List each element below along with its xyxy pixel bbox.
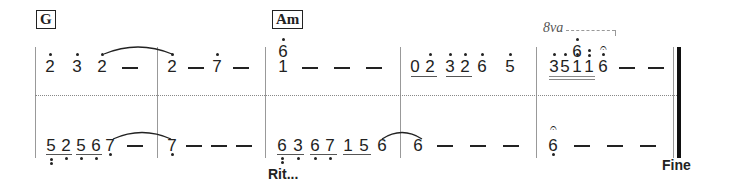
note: 6 [412,137,424,154]
fine-marking: Fine [662,157,691,173]
extension-dash [127,145,143,147]
note: 6 [547,137,559,154]
note: 1 [583,58,595,75]
note: 1 [571,58,583,75]
extension-dash [334,67,350,69]
high-octave-dot [429,53,432,56]
tie-arc [111,130,173,140]
eighth-underline [277,154,304,155]
barline-1 [157,47,158,158]
high-octave-dot [564,53,567,56]
barline-2 [265,47,266,158]
low-octave-dot [95,157,98,160]
note: 2 [424,58,436,75]
high-octave-dot [49,53,52,56]
extension-dash [437,145,453,147]
note: 2 [44,58,56,75]
high-octave-dot [576,53,579,56]
high-octave-dot [76,53,79,56]
ottava-dashed-line [566,30,615,31]
note: 2 [96,58,108,75]
sixteenth-underline-1 [549,76,595,77]
extension-dash [574,145,590,147]
high-octave-dot [216,53,219,56]
extension-dash [236,145,252,147]
chord-symbol-am: Am [272,10,303,29]
final-barline-thin [673,47,674,158]
high-octave-dot [481,53,484,56]
high-octave-dot [553,53,556,56]
note: 7 [166,137,178,154]
low-octave-dot [50,162,53,165]
high-octave-dot [282,38,285,41]
eighth-underline [310,154,337,155]
low-octave-dot [329,157,332,160]
low-octave-dot [281,157,284,160]
extension-dash [640,145,656,147]
ottava-marking: 8va [543,20,563,36]
extension-dash [122,67,138,69]
note: 6 [309,137,321,154]
extension-dash [607,145,623,147]
chord-symbol-g: G [36,10,56,29]
low-octave-dot [80,157,83,160]
high-octave-dot [588,54,591,57]
extension-dash [619,67,635,69]
barline-3 [400,47,401,158]
note: 5 [358,137,370,154]
eighth-underline [46,154,72,155]
note: 5 [504,58,516,75]
low-octave-dot [281,161,284,164]
note: 7 [211,58,223,75]
final-barline-thick [677,47,681,158]
high-octave-dot [602,53,605,56]
low-octave-dot [297,157,300,160]
note: 6 [90,137,102,154]
high-octave-dot [171,53,174,56]
note-rest: 0 [409,58,421,75]
extension-dash [186,145,202,147]
note: 5 [75,137,87,154]
low-octave-dot [65,157,68,160]
extension-dash [366,67,382,69]
barline-4 [536,47,537,158]
note: 6 [276,137,288,154]
note: 1 [277,58,289,75]
low-octave-dot [50,158,53,161]
tie-arc [102,44,174,56]
eighth-underline [446,76,472,77]
note: 3 [292,137,304,154]
note: 3 [444,58,456,75]
high-octave-dot [576,38,579,41]
low-octave-dot [109,153,112,156]
eighth-underline [411,76,437,77]
extension-dash [503,145,519,147]
note: 2 [459,58,471,75]
note: 6 [476,58,488,75]
eighth-underline [343,154,371,155]
note: 6 [597,58,609,75]
note: 7 [324,137,336,154]
low-octave-dot [552,153,555,156]
eighth-underline [76,154,102,155]
ottava-hook [615,30,616,36]
high-octave-dot [509,53,512,56]
extension-dash [648,67,664,69]
note: 5 [559,58,571,75]
extension-dash [233,67,249,69]
extension-dash [188,67,204,69]
note: 2 [166,58,178,75]
high-octave-dot [464,53,467,56]
note: 3 [71,58,83,75]
low-octave-dot [171,153,174,156]
note: 5 [45,137,57,154]
barline-start [35,47,36,158]
ritardando-marking: Rit... [268,166,298,182]
extension-dash [211,145,227,147]
fermata-icon: 𝄐 [547,122,559,134]
high-octave-dot [588,49,591,52]
high-octave-dot [449,53,452,56]
note: 1 [342,137,354,154]
low-octave-dot [314,157,317,160]
extension-dash [302,67,318,69]
